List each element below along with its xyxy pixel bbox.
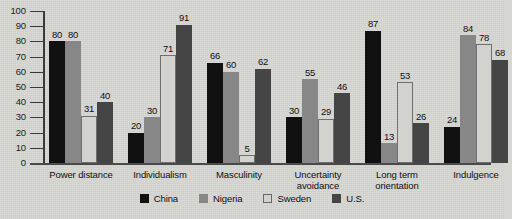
y-axis-tick-label: 70	[16, 52, 26, 62]
bar-china-individualism[interactable]: 20	[128, 11, 144, 163]
y-axis-tick-label: 30	[16, 113, 26, 123]
bar-nigeria-long-term-orientation[interactable]: 13	[381, 11, 397, 163]
bar-value-label: 84	[463, 24, 473, 34]
y-axis-tick	[30, 117, 43, 118]
bar-china-power-distance[interactable]: 80	[49, 11, 65, 163]
y-axis-tick-label: 10	[16, 143, 26, 153]
bar-u-s-uncertainty-avoidance[interactable]: 46	[334, 11, 350, 163]
bar-value-label: 24	[447, 115, 457, 125]
bar-group-uncertainty-avoidance: 30552946Uncertainty avoidance	[286, 11, 350, 163]
bar-value-label: 46	[337, 82, 347, 92]
bar-value-label: 66	[210, 51, 220, 61]
bar-value-label: 80	[52, 30, 62, 40]
bar-value-label: 71	[163, 44, 173, 54]
bar-rect	[223, 72, 239, 163]
legend-item-us[interactable]: U.S.	[332, 194, 364, 204]
bar-rect	[460, 35, 476, 163]
bar-u-s-masculinity[interactable]: 62	[255, 11, 271, 163]
bar-value-label: 91	[179, 13, 189, 23]
y-axis-tick-label: 90	[16, 21, 26, 31]
bar-sweden-uncertainty-avoidance[interactable]: 29	[318, 11, 334, 163]
bar-rect	[176, 25, 192, 163]
legend-swatch-icon	[199, 194, 208, 203]
bar-value-label: 78	[479, 33, 489, 43]
bar-rect	[334, 93, 350, 163]
bar-value-label: 5	[244, 144, 249, 154]
bar-china-uncertainty-avoidance[interactable]: 30	[286, 11, 302, 163]
y-axis-tick	[30, 41, 43, 42]
bar-rect	[97, 102, 113, 163]
y-axis-tick-label: 100	[10, 6, 26, 16]
bar-rect	[65, 41, 81, 163]
bar-value-label: 60	[226, 60, 236, 70]
legend-label: Sweden	[277, 194, 311, 204]
y-axis-tick-label: 80	[16, 37, 26, 47]
bar-sweden-long-term-orientation[interactable]: 53	[397, 11, 413, 163]
legend-item-nigeria[interactable]: Nigeria	[199, 194, 242, 204]
bar-group-masculinity: 6660562Masculinity	[207, 11, 271, 163]
bar-value-label: 26	[416, 112, 426, 122]
bar-value-label: 53	[400, 71, 410, 81]
bar-rect	[476, 44, 492, 163]
legend-swatch-icon	[263, 194, 272, 203]
y-axis-tick	[30, 148, 43, 149]
bar-value-label: 29	[321, 107, 331, 117]
bar-china-masculinity[interactable]: 66	[207, 11, 223, 163]
y-axis-tick	[30, 102, 43, 103]
bar-value-label: 62	[258, 57, 268, 67]
bar-rect	[160, 55, 176, 163]
bar-china-long-term-orientation[interactable]: 87	[365, 11, 381, 163]
y-axis-tick-label: 60	[16, 67, 26, 77]
y-axis-tick	[30, 57, 43, 58]
bar-value-label: 87	[368, 19, 378, 29]
bar-rect	[128, 133, 144, 163]
bar-nigeria-individualism[interactable]: 30	[144, 11, 160, 163]
bar-rect	[413, 123, 429, 163]
bar-nigeria-masculinity[interactable]: 60	[223, 11, 239, 163]
bar-rect	[302, 79, 318, 163]
legend-label: China	[154, 194, 178, 204]
bar-groups: 80803140Power distance20307191Individual…	[43, 11, 491, 163]
bar-value-label: 68	[495, 48, 505, 58]
bar-group-indulgence: 24847868Indulgence	[444, 11, 508, 163]
plot-area: 0102030405060708090100 80803140Power dis…	[43, 11, 491, 163]
y-axis-tick-label: 20	[16, 128, 26, 138]
bar-sweden-individualism[interactable]: 71	[160, 11, 176, 163]
x-axis-category-label: Masculinity	[195, 169, 283, 180]
bar-nigeria-uncertainty-avoidance[interactable]: 55	[302, 11, 318, 163]
x-axis-line	[30, 163, 491, 165]
bar-u-s-individualism[interactable]: 91	[176, 11, 192, 163]
x-axis-category-label: Uncertainty avoidance	[274, 169, 362, 191]
bar-china-indulgence[interactable]: 24	[444, 11, 460, 163]
bar-value-label: 31	[84, 104, 94, 114]
bar-value-label: 40	[100, 91, 110, 101]
bar-u-s-indulgence[interactable]: 68	[492, 11, 508, 163]
legend-swatch-icon	[332, 194, 341, 203]
bar-rect	[49, 41, 65, 163]
bar-u-s-power-distance[interactable]: 40	[97, 11, 113, 163]
x-axis-category-label: Power distance	[37, 169, 125, 180]
bar-rect	[318, 119, 334, 163]
legend-label: U.S.	[346, 194, 364, 204]
y-axis-tick-label: 50	[16, 82, 26, 92]
legend-item-sweden[interactable]: Sweden	[263, 194, 311, 204]
bar-rect	[365, 31, 381, 163]
bar-nigeria-power-distance[interactable]: 80	[65, 11, 81, 163]
bar-rect	[81, 116, 97, 163]
bar-u-s-long-term-orientation[interactable]: 26	[413, 11, 429, 163]
legend-label: Nigeria	[213, 194, 242, 204]
y-axis-tick	[30, 87, 43, 88]
bar-sweden-indulgence[interactable]: 78	[476, 11, 492, 163]
bar-nigeria-indulgence[interactable]: 84	[460, 11, 476, 163]
bar-value-label: 30	[289, 106, 299, 116]
bar-rect	[207, 63, 223, 163]
bar-rect	[492, 60, 508, 163]
legend-item-china[interactable]: China	[140, 194, 178, 204]
bar-sweden-power-distance[interactable]: 31	[81, 11, 97, 163]
bar-sweden-masculinity[interactable]: 5	[239, 11, 255, 163]
bar-rect	[397, 82, 413, 163]
y-axis-tick	[30, 11, 43, 12]
y-axis-tick-label: 0	[21, 158, 26, 168]
bar-group-power-distance: 80803140Power distance	[49, 11, 113, 163]
